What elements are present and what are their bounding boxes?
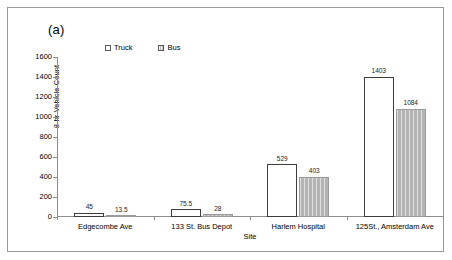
legend-item-bus: Bus [158,43,180,52]
legend-swatch-bus-icon [158,45,164,51]
x-axis-category-label: 133 St. Bus Depot [154,222,251,232]
x-axis-category-label: Harlem Hospital [250,222,347,232]
legend-item-truck: Truck [105,43,132,52]
x-axis-category-label: Edgecombe Ave [57,222,154,232]
y-axis-tick [53,197,58,198]
legend-label-truck: Truck [114,43,132,52]
y-axis-tick-label: 1000 [0,113,52,121]
figure-panel-a: (a) Truck Bus 8-hr Vehicle Count 1600140… [0,0,452,260]
y-axis-tick-label: 400 [0,173,52,181]
y-axis-tick [53,97,58,98]
bar-truck[interactable] [364,77,394,217]
bar-bus[interactable] [396,109,426,217]
y-axis-tick [53,177,58,178]
y-axis-tick-label: 1600 [0,53,52,61]
y-axis-tick-label: 200 [0,193,52,201]
x-axis-tick [154,216,155,220]
x-axis-tick [250,216,251,220]
y-axis-tick [53,117,58,118]
x-axis-tick [57,216,58,220]
legend-label-bus: Bus [167,43,180,52]
y-axis-tick-label: 800 [0,133,52,141]
y-axis-tick-label: 600 [0,153,52,161]
y-axis-tick [53,57,58,58]
x-axis-title: Site [57,232,443,241]
bar-value-label: 1084 [381,100,441,107]
x-axis-tick [443,216,444,220]
y-axis-tick-label: 1400 [0,73,52,81]
y-axis-tick-label: 1200 [0,93,52,101]
y-axis-tick [53,157,58,158]
plot-area: 4513.575.52852940314031084 [57,57,443,217]
y-axis-tick [53,77,58,78]
y-axis-tick-label: 0 [0,213,52,221]
bar-value-label: 1403 [349,68,409,75]
x-axis-tick [347,216,348,220]
legend-swatch-truck-icon [105,45,111,51]
x-axis-category-label: 125St., Amsterdam Ave [347,222,444,232]
chart-legend: Truck Bus [105,43,180,52]
bar-group: 14031084 [57,57,443,217]
y-axis-tick [53,137,58,138]
y-axis-tick-labels: 16001400120010008006004002000 [0,0,52,260]
